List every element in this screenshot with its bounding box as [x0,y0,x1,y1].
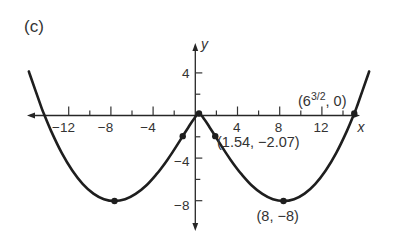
y-axis [192,43,202,231]
zero-annotation: (63/2, 0) [298,90,346,110]
y-tick-label: 4 [182,66,190,81]
plot-area: (c) y x −12 −8 −4 4 8 12 4 −4 [0,0,394,240]
marked-point-dot [196,110,202,116]
inflection-annotation: (1.54, −2.07) [217,134,300,150]
x-tick-label: −4 [140,120,156,135]
x-axis-label: x [357,119,366,135]
y-axis-ticks [195,73,202,201]
marked-point-dot [351,110,357,116]
marked-point-dot [280,198,286,204]
x-axis-left-arrow-icon [27,113,35,119]
zero-annotation-close: , 0) [326,93,347,109]
y-axis-label: y [200,36,209,52]
zero-annotation-open: (6 [298,93,311,109]
x-tick-label: 12 [313,120,328,135]
zero-annotation-exponent: 3/2 [311,90,326,102]
x-tick-label: −12 [52,120,75,135]
y-axis-down-arrow-icon [192,223,198,231]
marked-point-dot [111,198,117,204]
x-tick-label: 8 [275,120,283,135]
marked-point-dot [180,133,186,139]
minimum-annotation: (8, −8) [257,208,299,224]
y-tick-label: −8 [174,198,189,213]
y-axis-up-arrow-icon [192,43,198,51]
x-tick-label: −8 [98,120,113,135]
x-tick-label: 4 [233,120,241,135]
figure-panel-c: (c) y x −12 −8 −4 4 8 12 4 −4 [0,0,394,240]
y-tick-label: −4 [174,154,190,169]
panel-label: (c) [24,17,44,36]
